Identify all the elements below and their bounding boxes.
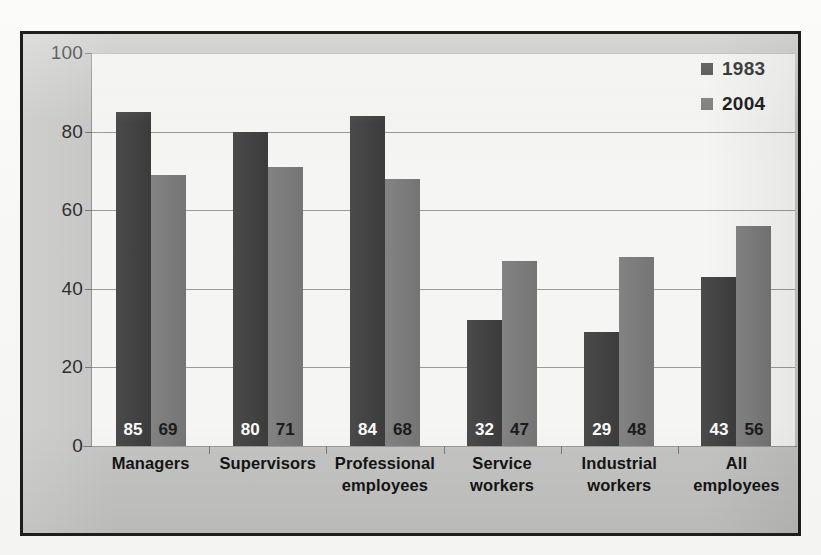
- x-label-line: workers: [444, 474, 561, 496]
- y-tick-label-0: 0: [31, 435, 83, 457]
- bar-group: 8071: [233, 53, 303, 446]
- x-label-line: All: [678, 452, 795, 474]
- bar-1983[interactable]: 29: [584, 332, 619, 446]
- gridline-40: [92, 289, 795, 290]
- bar-2004[interactable]: 56: [736, 226, 771, 446]
- bar-2004[interactable]: 69: [151, 175, 186, 446]
- category-tick: [209, 446, 210, 454]
- bar-value-label: 29: [584, 420, 619, 440]
- gridline-60: [92, 210, 795, 211]
- y-tick-mark-20: [85, 367, 92, 368]
- y-tick-label-60: 60: [31, 199, 83, 221]
- x-label-industrial-workers: Industrialworkers: [561, 452, 678, 496]
- bar-value-label: 80: [233, 420, 268, 440]
- gridline-100: [92, 53, 795, 54]
- x-label-service-workers: Serviceworkers: [444, 452, 561, 496]
- y-tick-mark-60: [85, 210, 92, 211]
- legend-swatch-1983-icon: [701, 63, 713, 75]
- bar-value-label: 56: [736, 420, 771, 440]
- bar-group: 8468: [350, 53, 420, 446]
- bar-2004[interactable]: 71: [268, 167, 303, 446]
- x-axis-category-labels: ManagersSupervisorsProfessionalemployees…: [83, 452, 797, 522]
- category-tick: [326, 446, 327, 454]
- x-label-line: workers: [561, 474, 678, 496]
- bar-2004[interactable]: 48: [619, 257, 654, 446]
- bar-1983[interactable]: 43: [701, 277, 736, 446]
- bar-value-label: 71: [268, 420, 303, 440]
- bar-value-label: 43: [701, 420, 736, 440]
- scanned-page-background: 020406080100 856980718468324729484356 Ma…: [0, 0, 821, 555]
- bar-value-label: 32: [467, 420, 502, 440]
- category-tick: [444, 446, 445, 454]
- bar-value-label: 68: [385, 420, 420, 440]
- bar-1983[interactable]: 85: [116, 112, 151, 446]
- bar-value-label: 47: [502, 420, 537, 440]
- y-tick-label-40: 40: [31, 278, 83, 300]
- x-label-line: Service: [444, 452, 561, 474]
- y-tick-mark-0: [85, 446, 92, 447]
- y-tick-mark-40: [85, 289, 92, 290]
- y-tick-label-100: 100: [31, 42, 83, 64]
- bar-group: 8569: [116, 53, 186, 446]
- x-label-managers: Managers: [92, 452, 209, 474]
- x-label-professional-employees: Professionalemployees: [326, 452, 443, 496]
- gridline-80: [92, 132, 795, 133]
- x-label-line: Managers: [92, 452, 209, 474]
- legend-label: 2004: [722, 93, 765, 115]
- x-label-line: employees: [678, 474, 795, 496]
- chart-legend: 19832004: [663, 58, 783, 128]
- legend-item-2004[interactable]: 2004: [663, 93, 783, 115]
- bar-1983[interactable]: 84: [350, 116, 385, 446]
- legend-label: 1983: [722, 58, 765, 80]
- x-label-supervisors: Supervisors: [209, 452, 326, 474]
- bar-value-label: 85: [116, 420, 151, 440]
- bar-2004[interactable]: 68: [385, 179, 420, 446]
- legend-swatch-2004-icon: [701, 98, 713, 110]
- x-label-line: Professional: [326, 452, 443, 474]
- x-label-line: Supervisors: [209, 452, 326, 474]
- bar-1983[interactable]: 80: [233, 132, 268, 446]
- y-axis: 020406080100: [23, 34, 83, 533]
- category-tick: [678, 446, 679, 454]
- y-tick-mark-80: [85, 132, 92, 133]
- y-tick-label-80: 80: [31, 121, 83, 143]
- legend-item-1983[interactable]: 1983: [663, 58, 783, 80]
- bar-group: 2948: [584, 53, 654, 446]
- bar-1983[interactable]: 32: [467, 320, 502, 446]
- bar-value-label: 69: [151, 420, 186, 440]
- gridline-20: [92, 367, 795, 368]
- category-tick: [561, 446, 562, 454]
- y-tick-label-20: 20: [31, 356, 83, 378]
- bar-value-label: 84: [350, 420, 385, 440]
- bar-2004[interactable]: 47: [502, 261, 537, 446]
- bar-group: 3247: [467, 53, 537, 446]
- bar-value-label: 48: [619, 420, 654, 440]
- x-label-all-employees: Allemployees: [678, 452, 795, 496]
- chart-frame: 020406080100 856980718468324729484356 Ma…: [20, 31, 801, 536]
- y-tick-mark-100: [85, 53, 92, 54]
- x-label-line: Industrial: [561, 452, 678, 474]
- x-label-line: employees: [326, 474, 443, 496]
